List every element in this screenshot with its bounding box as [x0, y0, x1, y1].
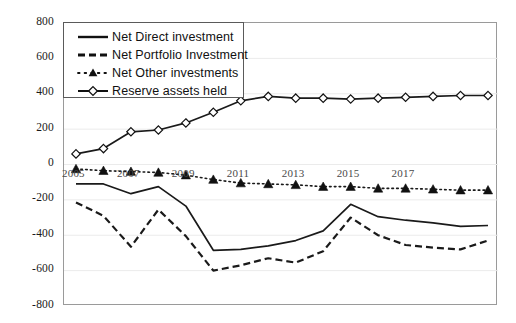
- chart-container: 8006004002000-200-400-600-800 2005200720…: [0, 0, 516, 323]
- legend-item: Net Portfolio Investment: [76, 46, 235, 64]
- x-tick-label: 2015: [337, 167, 360, 179]
- legend-label: Net Portfolio Investment: [112, 48, 248, 62]
- legend-symbol-dotted-line-triangle-icon: [76, 66, 110, 80]
- legend-symbol-solid-line-diamond-icon: [76, 84, 110, 98]
- legend-label: Reserve assets held: [112, 84, 227, 98]
- data-point-marker-diamond: [319, 94, 327, 102]
- legend-label: Net Other investments: [112, 66, 238, 80]
- legend-symbol-dashed-line-icon: [76, 48, 110, 62]
- x-tick-label: 2017: [392, 167, 415, 179]
- y-tick-label: -800: [20, 298, 54, 310]
- data-point-marker-diamond: [401, 93, 409, 101]
- x-tick-label: 2011: [227, 167, 249, 179]
- series-line-0: [76, 184, 488, 250]
- series-line-1: [76, 203, 488, 271]
- y-tick-label: -200: [20, 191, 54, 203]
- y-tick-label: 400: [20, 85, 54, 97]
- y-tick-label: 200: [20, 121, 54, 133]
- x-tick-label: 2007: [117, 167, 140, 179]
- y-tick-label: -600: [20, 262, 54, 274]
- data-point-marker-diamond: [209, 108, 217, 116]
- data-point-marker-diamond: [456, 91, 464, 99]
- x-tick-label: 2005: [62, 167, 85, 179]
- y-tick-label: 0: [20, 156, 54, 168]
- data-point-marker-diamond: [154, 126, 162, 134]
- y-tick-label: -400: [20, 227, 54, 239]
- legend-symbol-solid-line-icon: [76, 30, 110, 44]
- data-point-marker-diamond: [484, 91, 492, 99]
- chart-legend: Net Direct investmentNet Portfolio Inves…: [63, 22, 244, 98]
- y-tick-label: 600: [20, 50, 54, 62]
- legend-label: Net Direct investment: [112, 30, 234, 44]
- data-point-marker-diamond: [374, 94, 382, 102]
- data-point-marker-diamond: [72, 150, 80, 158]
- series-line-3: [76, 96, 488, 154]
- data-point-marker-triangle: [154, 168, 163, 176]
- legend-item: Net Direct investment: [76, 28, 235, 46]
- data-point-marker-diamond: [292, 94, 300, 102]
- x-tick-label: 2013: [282, 167, 305, 179]
- data-point-marker-diamond: [182, 119, 190, 127]
- y-tick-label: 800: [20, 15, 54, 27]
- data-point-marker-diamond: [346, 95, 354, 103]
- data-point-marker-diamond: [99, 144, 107, 152]
- legend-item: Reserve assets held: [76, 82, 235, 100]
- x-tick-label: 2009: [172, 167, 195, 179]
- legend-item: Net Other investments: [76, 64, 235, 82]
